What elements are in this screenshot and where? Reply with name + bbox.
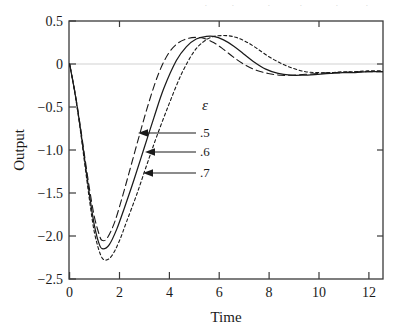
chart-figure: . . . . . . 0.5 0 −0.5 −1.0 −1.5 −2.0 −2… — [0, 0, 395, 333]
x-tick-label: 6 — [216, 285, 223, 300]
y-tick-label: −2.5 — [38, 272, 63, 287]
x-tick-label: 12 — [362, 285, 376, 300]
y-tick-label: −1.0 — [38, 143, 63, 158]
y-tick-label: −1.5 — [38, 186, 63, 201]
y-tick-label: 0.5 — [46, 14, 64, 29]
y-tick-label: −0.5 — [38, 100, 63, 115]
svg-text:.: . — [300, 0, 302, 8]
svg-text:.: . — [336, 0, 338, 8]
legend-label-05: .5 — [200, 125, 210, 140]
x-tick-label: 10 — [312, 285, 326, 300]
y-tick-label: −2.0 — [38, 229, 63, 244]
svg-text:.: . — [268, 0, 270, 8]
legend-epsilon-symbol: ε — [202, 97, 208, 113]
x-tick-label: 2 — [116, 285, 123, 300]
svg-text:.: . — [232, 0, 234, 8]
x-axis-title: Time — [210, 309, 241, 325]
x-tick-label: 4 — [166, 285, 173, 300]
y-tick-label: 0 — [56, 57, 63, 72]
y-axis-title: Output — [11, 128, 27, 171]
x-tick-label: 8 — [266, 285, 273, 300]
svg-text:.: . — [366, 0, 368, 8]
legend-label-07: .7 — [200, 165, 210, 180]
svg-text:.: . — [205, 0, 207, 8]
legend-label-06: .6 — [200, 144, 210, 159]
x-tick-label: 0 — [66, 285, 73, 300]
